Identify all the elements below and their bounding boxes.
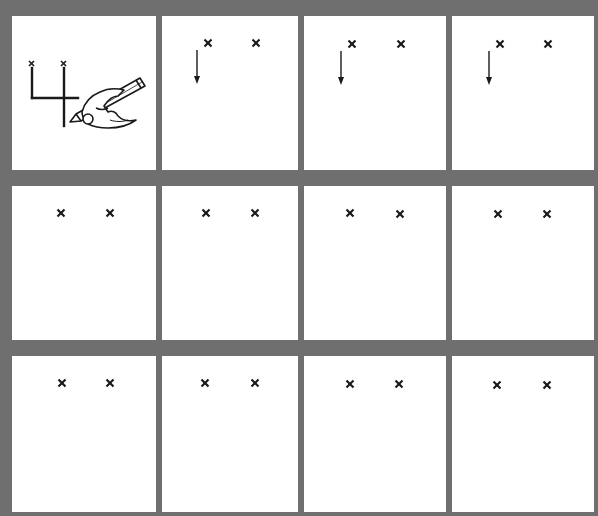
x-mark-icon [347,381,354,388]
x-mark-icon [253,40,260,47]
x-mark-icon [545,41,552,48]
x-mark-icon [544,211,551,218]
arrow-down-icon [486,51,492,85]
x-mark-icon [349,41,356,48]
arrow-down-icon [338,51,344,85]
x-mark-icon [495,211,502,218]
x-mark-icon [494,382,501,389]
x-mark-icon [397,211,404,218]
x-mark-icon [58,210,65,217]
x-mark-icon [252,210,259,217]
x-mark-icon [396,381,403,388]
x-mark-icon [497,41,504,48]
x-mark-icon [107,380,114,387]
x-mark-icon [205,40,212,47]
x-mark-icon [107,210,114,217]
x-mark-icon [202,380,209,387]
arrow-down-icon [194,50,200,84]
x-mark-icon [544,382,551,389]
marks-overlay [0,0,598,516]
x-mark-icon [347,210,354,217]
x-mark-icon [252,380,259,387]
x-mark-icon [398,41,405,48]
x-mark-icon [59,380,66,387]
x-mark-icon [203,210,210,217]
